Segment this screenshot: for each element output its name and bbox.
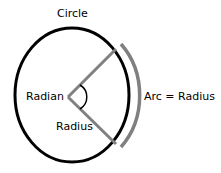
circle-label: Circle <box>57 7 88 20</box>
radius-line-upper <box>68 49 116 97</box>
radian-label: Radian <box>26 90 64 103</box>
arc-label: Arc = Radius <box>144 90 215 103</box>
radian-diagram <box>0 0 221 173</box>
radius-label: Radius <box>56 120 93 133</box>
angle-mark <box>80 85 87 109</box>
